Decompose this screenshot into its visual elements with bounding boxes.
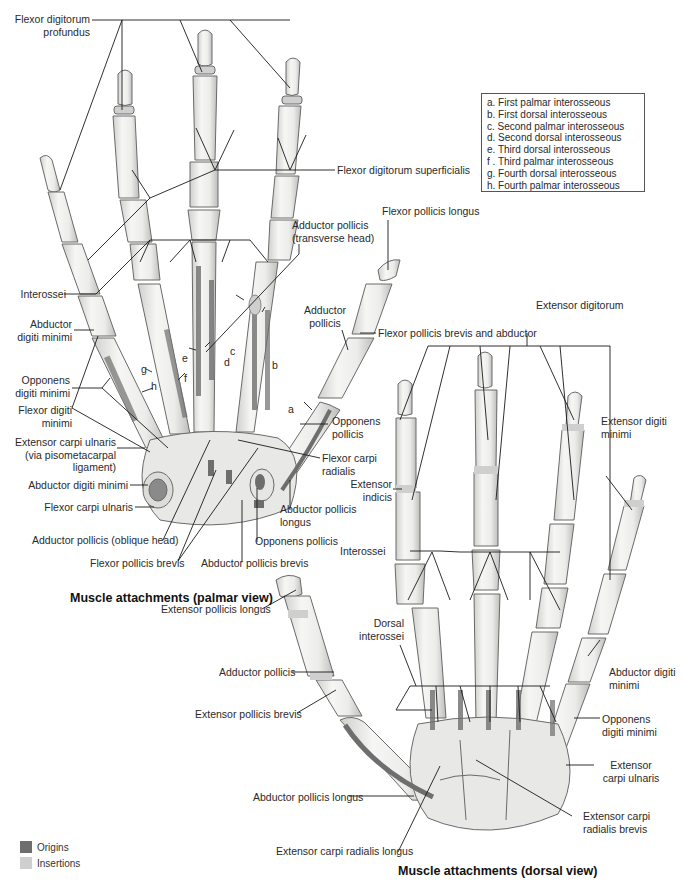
- label-extensor-carpi-radialis-brevis: Extensor carpi radialis brevis: [583, 810, 650, 835]
- key-item: e. Third dorsal interosseous: [487, 144, 644, 156]
- legend-item-origins: Origins: [20, 839, 80, 855]
- label-line: Opponens: [8, 374, 70, 387]
- interosseous-key: a. First palmar interosseous b. First do…: [481, 93, 645, 192]
- label-line: digiti minimi: [10, 331, 72, 344]
- label-line: Opponens: [332, 415, 380, 428]
- label-flexor-digiti-minimi: Flexor digiti minimi: [8, 404, 72, 429]
- label-dorsal-interossei: Dorsal interossei: [352, 617, 404, 642]
- label-extensor-pollicis-brevis: Extensor pollicis brevis: [195, 708, 302, 721]
- label-line: profundus: [12, 26, 90, 39]
- label-opponens-pollicis-wrist: Opponens pollicis: [255, 535, 338, 548]
- letter-c: c: [230, 345, 235, 358]
- key-item: c. Second palmar interosseous: [487, 121, 644, 133]
- label-line: Abductor: [10, 318, 72, 331]
- label-flexor-digitorum-superficialis: Flexor digitorum superficialis: [337, 164, 470, 177]
- label-line: Extensor digiti: [601, 415, 667, 428]
- letter-d: d: [224, 356, 230, 369]
- dorsal-view-title: Muscle attachments (dorsal view): [398, 864, 597, 878]
- legend-label: Origins: [37, 842, 69, 853]
- label-abductor-pollicis-brevis: Abductor pollicis brevis: [201, 557, 308, 570]
- label-flexor-pollicis-brevis: Flexor pollicis brevis: [90, 557, 185, 570]
- label-line: Extensor: [592, 759, 670, 772]
- label-line: (transverse head): [292, 232, 374, 245]
- label-line: Adductor pollicis: [292, 219, 374, 232]
- label-line: digiti minimi: [602, 726, 657, 739]
- label-line: minimi: [8, 417, 72, 430]
- key-item: f . Third palmar interosseous: [487, 156, 644, 168]
- label-interossei-dorsal: Interossei: [340, 545, 386, 558]
- label-line: digiti minimi: [8, 387, 70, 400]
- label-line: longus: [280, 516, 356, 529]
- label-opponens-pollicis: Opponens pollicis: [332, 415, 380, 440]
- label-line: minimi: [601, 428, 667, 441]
- label-abductor-digiti-minimi-dorsal: Abductor digiti minimi: [609, 666, 676, 691]
- legend-label: Insertions: [37, 858, 80, 869]
- label-extensor-carpi-radialis-longus: Extensor carpi radialis longus: [276, 845, 413, 858]
- label-adductor-pollicis: Adductor pollicis: [300, 304, 350, 329]
- label-adductor-pollicis-oblique-head: Adductor pollicis (oblique head): [32, 534, 179, 547]
- label-line: Flexor digitorum: [12, 13, 90, 26]
- origins-swatch: [20, 841, 32, 853]
- label-line: ligament): [4, 461, 116, 474]
- key-item: d. Second dorsal interosseous: [487, 132, 644, 144]
- label-adductor-pollicis-transverse: Adductor pollicis (transverse head): [292, 219, 374, 244]
- label-line: Extensor carpi ulnaris: [4, 436, 116, 449]
- label-extensor-digiti-minimi: Extensor digiti minimi: [601, 415, 667, 440]
- label-flexor-digitorum-profundus: Flexor digitorum profundus: [12, 13, 90, 38]
- label-extensor-digitorum: Extensor digitorum: [536, 299, 624, 312]
- letter-g: g: [141, 363, 147, 376]
- label-line: Extensor: [340, 478, 392, 491]
- label-abductor-digiti-minimi-wrist: Abductor digiti minimi: [4, 479, 128, 492]
- key-item: h. Fourth palmar interosseous: [487, 180, 644, 192]
- letter-h: h: [151, 380, 157, 393]
- key-item: g. Fourth dorsal interosseous: [487, 168, 644, 180]
- label-line: radialis: [322, 465, 377, 478]
- letter-e: e: [182, 352, 188, 365]
- label-interossei-palmar: Interossei: [10, 288, 66, 301]
- label-line: (via pisometacarpal: [4, 449, 116, 462]
- label-extensor-carpi-ulnaris-palmar: Extensor carpi ulnaris (via pisometacarp…: [4, 436, 116, 474]
- label-line: Abductor digiti: [609, 666, 676, 679]
- label-line: Flexor digiti: [8, 404, 72, 417]
- label-line: minimi: [609, 679, 676, 692]
- key-item: a. First palmar interosseous: [487, 97, 644, 109]
- insertions-swatch: [20, 857, 32, 869]
- letter-a: a: [288, 403, 294, 416]
- label-flexor-carpi-ulnaris: Flexor carpi ulnaris: [4, 501, 133, 514]
- label-flexor-carpi-radialis: Flexor carpi radialis: [322, 452, 377, 477]
- label-abductor-pollicis-longus-dorsal: Abductor pollicis longus: [253, 791, 363, 804]
- key-item: b. First dorsal interosseous: [487, 109, 644, 121]
- legend-item-insertions: Insertions: [20, 855, 80, 871]
- label-line: pollicis: [300, 317, 350, 330]
- label-line: Extensor carpi: [583, 810, 650, 823]
- label-flexor-pollicis-longus: Flexor pollicis longus: [382, 205, 479, 218]
- label-line: interossei: [352, 630, 404, 643]
- label-line: radialis brevis: [583, 823, 650, 836]
- legend: Origins Insertions: [20, 839, 80, 871]
- letter-b: b: [272, 359, 278, 372]
- label-extensor-carpi-ulnaris-dorsal: Extensor carpi ulnaris: [592, 759, 670, 784]
- label-extensor-indicis: Extensor indicis: [340, 478, 392, 503]
- label-opponens-digiti-minimi-dorsal: Opponens digiti minimi: [602, 713, 657, 738]
- label-line: indicis: [340, 491, 392, 504]
- label-line: Adductor: [300, 304, 350, 317]
- label-opponens-digiti-minimi: Opponens digiti minimi: [8, 374, 70, 399]
- letter-f: f: [184, 372, 187, 385]
- label-abductor-digiti-minimi: Abductor digiti minimi: [10, 318, 72, 343]
- label-flexor-pollicis-brevis-and-abductor: Flexor pollicis brevis and abductor: [378, 327, 537, 340]
- label-line: Abductor pollicis: [280, 503, 356, 516]
- label-abductor-pollicis-longus-palmar: Abductor pollicis longus: [280, 503, 356, 528]
- label-line: Flexor carpi: [322, 452, 377, 465]
- label-line: pollicis: [332, 428, 380, 441]
- label-line: Dorsal: [352, 617, 404, 630]
- label-line: carpi ulnaris: [592, 772, 670, 785]
- label-extensor-pollicis-longus: Extensor pollicis longus: [161, 603, 271, 616]
- label-adductor-pollicis-dorsal: Adductor pollicis: [219, 666, 295, 679]
- label-line: Opponens: [602, 713, 657, 726]
